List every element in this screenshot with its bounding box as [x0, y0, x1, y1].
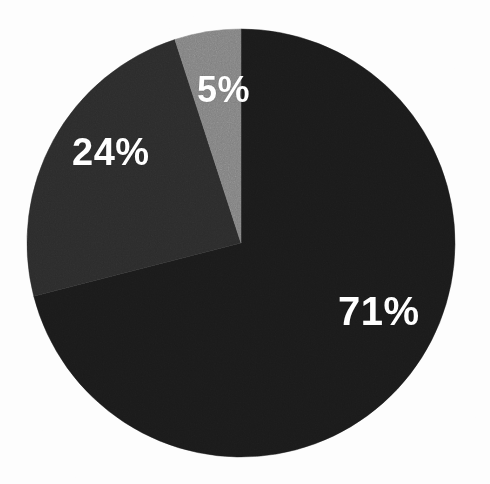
pie-slice-label-71: 71% [338, 291, 420, 331]
pie-slice-label-24: 24% [72, 133, 150, 171]
pie-chart-figure: 71% 24% 5% [0, 0, 490, 484]
pie-slice-label-5: 5% [197, 72, 250, 108]
